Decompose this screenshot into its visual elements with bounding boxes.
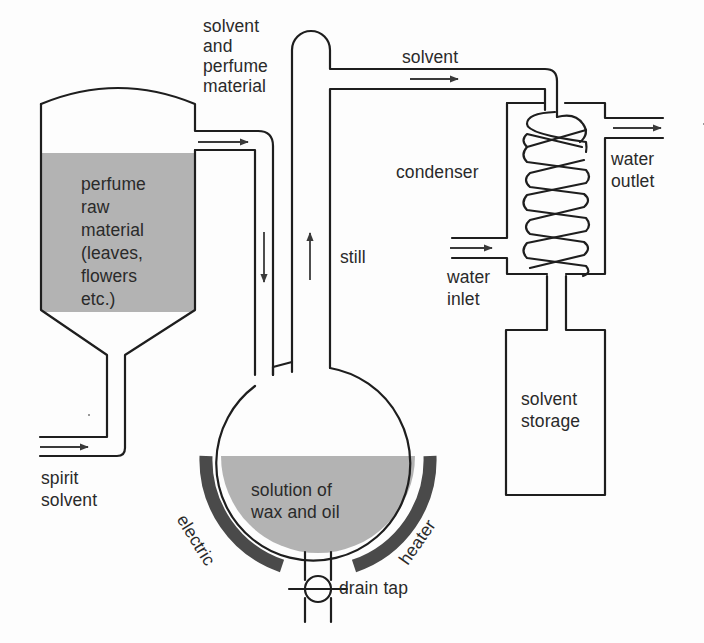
label-solvent: solvent <box>402 47 458 67</box>
still <box>216 31 557 622</box>
label-drain-tap: drain tap <box>339 578 408 598</box>
condenser-coil <box>524 112 590 276</box>
label-still: still <box>340 247 366 267</box>
label-solution: solution of wax and oil <box>251 479 340 523</box>
label-solvent-storage: solvent storage <box>521 388 580 432</box>
label-water-outlet: water outlet <box>611 148 654 192</box>
label-spirit-solvent: spirit solvent <box>41 467 97 511</box>
label-water-inlet: water inlet <box>447 266 490 310</box>
distillation-diagram <box>0 0 704 643</box>
label-condenser: condenser <box>396 162 479 182</box>
label-solvent-and-perfume-material: solvent and perfume material <box>203 16 268 96</box>
label-raw-material: perfume raw material (leaves, flowers et… <box>81 173 146 311</box>
